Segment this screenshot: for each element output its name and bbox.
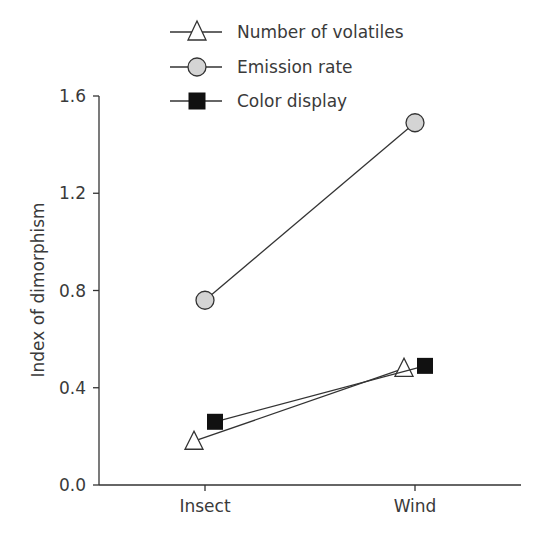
circle-marker [196, 291, 214, 309]
legend-label: Color display [237, 91, 347, 111]
y-axis-title: Index of dimorphism [28, 202, 48, 377]
legend-item-color: Color display [170, 91, 347, 111]
y-tick-label: 0.4 [59, 378, 86, 398]
circle-marker [406, 114, 424, 132]
axes: 0.00.40.81.21.6 InsectWind Index of dimo… [28, 86, 521, 516]
legend-label: Emission rate [237, 57, 353, 77]
square-marker [417, 358, 433, 374]
y-tick-label: 0.8 [59, 281, 86, 301]
y-tick-label: 0.0 [59, 475, 86, 495]
legend-item-emission: Emission rate [170, 57, 353, 77]
legend-label: Number of volatiles [237, 22, 404, 42]
y-ticks: 0.00.40.81.21.6 [59, 86, 99, 495]
square-marker [207, 414, 223, 430]
triangle-icon [188, 21, 206, 40]
square-icon [189, 93, 205, 109]
y-tick-label: 1.2 [59, 183, 86, 203]
y-tick-label: 1.6 [59, 86, 86, 106]
plot-area [185, 114, 433, 449]
circle-icon [188, 58, 206, 76]
series-number-of-volatiles [185, 358, 413, 449]
triangle-marker [185, 431, 203, 449]
series-emission-rate [196, 114, 424, 309]
legend: Number of volatiles Emission rate Color … [170, 21, 404, 111]
chart: Number of volatiles Emission rate Color … [0, 0, 554, 537]
x-tick-label: Wind [394, 496, 437, 516]
x-ticks: InsectWind [179, 485, 436, 516]
x-tick-label: Insect [179, 496, 230, 516]
legend-item-volatiles: Number of volatiles [170, 21, 404, 42]
